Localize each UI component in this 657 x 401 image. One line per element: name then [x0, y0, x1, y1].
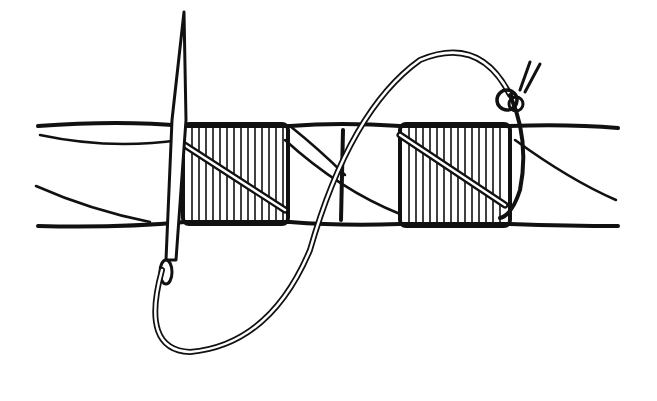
- rope-whipping-drawing: [0, 0, 657, 401]
- rope: [36, 123, 618, 227]
- needle: [160, 12, 186, 284]
- whipping-band-right: [400, 124, 510, 226]
- whipping-band-left: [180, 124, 288, 224]
- illustration: [0, 0, 657, 401]
- stitch: [341, 130, 343, 220]
